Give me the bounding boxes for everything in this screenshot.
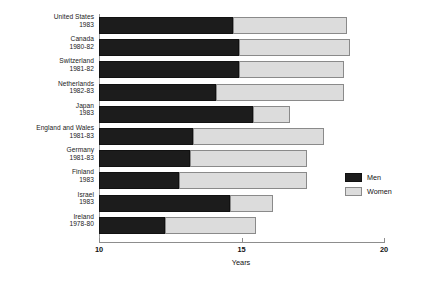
bar-segment-women: [165, 217, 256, 234]
bar-segment-men: [99, 172, 179, 189]
bar-segment-men: [99, 84, 216, 101]
category-label-period: 1983: [0, 176, 94, 184]
legend-item-men: Men: [345, 172, 392, 182]
bar-segment-women: [239, 61, 344, 78]
category-label-country: Netherlands: [0, 80, 94, 88]
x-tick-mark: [99, 238, 100, 243]
category-label: United States1983: [0, 13, 94, 28]
category-label: Japan1983: [0, 102, 94, 117]
bar-segment-men: [99, 17, 233, 34]
category-label-period: 1982-83: [0, 87, 94, 95]
category-label: Germany1981-83: [0, 146, 94, 161]
category-label: Canada1980-82: [0, 35, 94, 50]
bar-row: [99, 217, 384, 234]
bar-row: [99, 17, 384, 34]
bar-row: [99, 128, 384, 145]
category-label-country: England and Wales: [0, 124, 94, 132]
bar-row: [99, 84, 384, 101]
category-label-period: 1981-82: [0, 65, 94, 73]
category-label-country: Germany: [0, 146, 94, 154]
category-label-period: 1981-83: [0, 132, 94, 140]
bar-segment-women: [190, 150, 307, 167]
bar-rows: [99, 14, 384, 238]
bar-segment-men: [99, 150, 190, 167]
legend-item-women: Women: [345, 186, 392, 196]
bar-segment-men: [99, 61, 239, 78]
category-label-country: Israel: [0, 191, 94, 199]
category-label-country: Switzerland: [0, 57, 94, 65]
category-label-country: Ireland: [0, 213, 94, 221]
bar-segment-men: [99, 128, 193, 145]
x-axis-title-text: Years: [232, 258, 251, 267]
category-label-period: 1981-83: [0, 154, 94, 162]
category-label: Israel1983: [0, 191, 94, 206]
bar-segment-women: [179, 172, 307, 189]
bar-row: [99, 150, 384, 167]
bar-segment-women: [230, 195, 273, 212]
category-label-period: 1983: [0, 109, 94, 117]
bar-row: [99, 106, 384, 123]
bar-row: [99, 172, 384, 189]
chart-root: United States1983Canada1980-82Switzerlan…: [0, 0, 424, 281]
category-label: Ireland1978-80: [0, 213, 94, 228]
category-label-country: Finland: [0, 168, 94, 176]
x-tick-mark: [242, 238, 243, 243]
bar-segment-women: [253, 106, 290, 123]
x-tick-label: 20: [380, 245, 388, 254]
legend-label-men: Men: [367, 173, 381, 182]
legend-label-women: Women: [367, 187, 392, 196]
bar-segment-women: [239, 39, 350, 56]
category-label-country: Canada: [0, 35, 94, 43]
bar-segment-women: [193, 128, 324, 145]
category-label-period: 1978-80: [0, 220, 94, 228]
bar-row: [99, 195, 384, 212]
bar-row: [99, 39, 384, 56]
category-label: Netherlands1982-83: [0, 80, 94, 95]
category-label-period: 1983: [0, 21, 94, 29]
x-tick-label: 10: [95, 245, 103, 254]
bar-segment-men: [99, 106, 253, 123]
bar-segment-women: [216, 84, 344, 101]
bar-segment-men: [99, 195, 230, 212]
legend-swatch-men-icon: [345, 173, 362, 182]
category-label: Finland1983: [0, 168, 94, 183]
bar-segment-men: [99, 39, 239, 56]
chart-legend: Men Women: [345, 172, 392, 200]
plot-area: [99, 14, 384, 238]
category-label-country: United States: [0, 13, 94, 21]
bar-segment-men: [99, 217, 165, 234]
category-axis-labels: United States1983Canada1980-82Switzerlan…: [0, 14, 94, 238]
category-label-country: Japan: [0, 102, 94, 110]
legend-swatch-women-icon: [345, 187, 362, 196]
category-label-period: 1983: [0, 198, 94, 206]
category-label-period: 1980-82: [0, 43, 94, 51]
category-label: England and Wales1981-83: [0, 124, 94, 139]
bar-row: [99, 61, 384, 78]
bar-segment-women: [233, 17, 347, 34]
x-tick-label: 15: [237, 245, 245, 254]
category-label: Switzerland1981-82: [0, 57, 94, 72]
x-tick-mark: [384, 238, 385, 243]
